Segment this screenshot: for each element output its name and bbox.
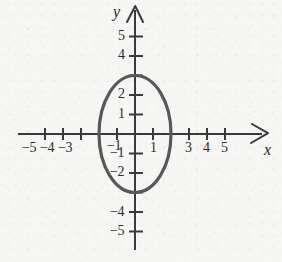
x-axis-label: x	[264, 142, 271, 158]
x-tick-label: 5	[221, 141, 228, 155]
x-tick-label: −3	[58, 141, 72, 155]
y-axis-label: y	[113, 4, 120, 20]
x-tick-label: 4	[203, 141, 210, 155]
y-tick-label: −2	[110, 165, 124, 179]
graph-figure: y x −5 −4 −3 −1 1 3 4 5 5 4 2 1 −1 −2 −4…	[0, 0, 282, 262]
coordinate-plane-svg	[0, 0, 282, 262]
y-tick-label: 4	[118, 48, 125, 62]
y-tick-label: −4	[110, 205, 124, 219]
y-tick-label: −1	[110, 146, 124, 160]
x-tick-label: 3	[185, 141, 192, 155]
x-tick-label: −5	[22, 141, 36, 155]
y-tick-label: 2	[118, 87, 125, 101]
y-tick-label: −5	[110, 224, 124, 238]
x-tick-label: 1	[150, 141, 157, 155]
x-tick-label: −4	[40, 141, 54, 155]
y-tick-label: 5	[118, 29, 125, 43]
y-tick-label: 1	[118, 107, 125, 121]
